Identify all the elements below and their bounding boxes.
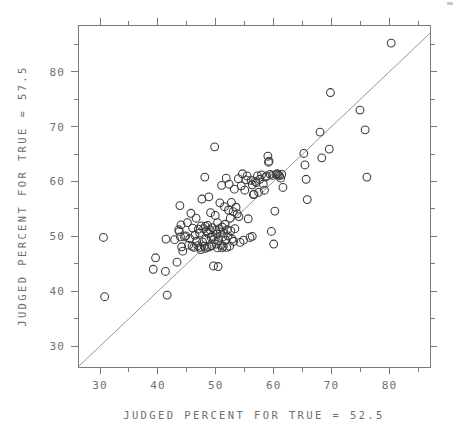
plot-background [0,0,456,440]
y-tick-label: 50 [50,230,65,243]
y-tick-label: 30 [50,340,65,353]
x-axis-title: JUDGED PERCENT FOR TRUE = 52.5 [123,409,385,421]
x-tick-label: 80 [382,379,397,392]
x-tick-label: 50 [208,379,223,392]
scatter-plot-svg: 304050607080 304050607080 JUDGED PERCENT… [0,0,456,440]
x-tick-label: 30 [92,379,107,392]
x-tick-label: 60 [266,379,281,392]
x-tick-label: 70 [324,379,339,392]
y-tick-label: 70 [50,121,65,134]
y-tick-label: 80 [50,66,65,79]
x-tick-label: 40 [150,379,165,392]
scatter-plot-figure: 304050607080 304050607080 JUDGED PERCENT… [0,0,456,440]
corner-artifact [447,2,453,5]
y-axis-title: JUDGED PERCENT FOR TRUE = 57.5 [16,65,28,327]
y-tick-label: 60 [50,175,65,188]
y-tick-label: 40 [50,285,65,298]
